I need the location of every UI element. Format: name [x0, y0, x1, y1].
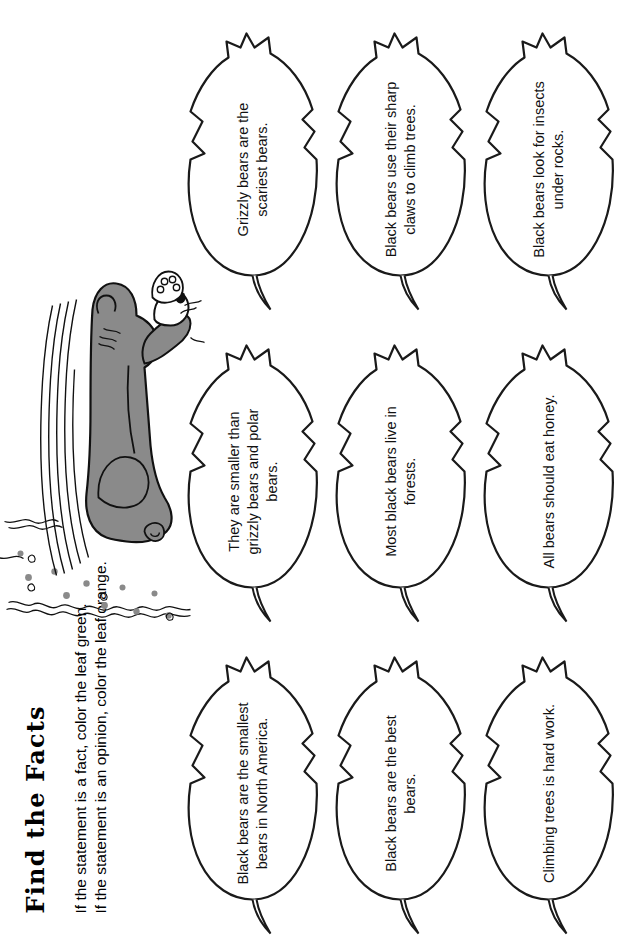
leaf-item[interactable]: They are smaller than grizzly bears and …: [182, 331, 322, 631]
worksheet-sheet: Find the Facts If the statement is a fac…: [0, 0, 622, 949]
leaf-icon: [330, 19, 470, 319]
leaf-item[interactable]: All bears should eat honey.: [478, 331, 618, 631]
leaf-grid: Black bears are the smallest bears in No…: [180, 0, 622, 949]
leaf-item[interactable]: Black bears look for insects under rocks…: [478, 19, 618, 319]
leaf-item[interactable]: Black bears are the smallest bears in No…: [182, 643, 322, 943]
page-title: Find the Facts: [20, 705, 49, 913]
worksheet-page: Find the Facts If the statement is a fac…: [0, 0, 622, 949]
leaf-item[interactable]: Grizzly bears are the scariest bears.: [182, 19, 322, 319]
bear-illustration: [0, 229, 194, 649]
leaf-item[interactable]: Most black bears live in forests.: [330, 331, 470, 631]
leaf-icon: [478, 643, 618, 943]
bee-dots-icon: [17, 550, 173, 620]
leaf-icon: [182, 19, 322, 319]
leaf-icon: [182, 331, 322, 631]
leaf-item[interactable]: Climbing trees is hard work.: [478, 643, 618, 943]
leaf-item[interactable]: Black bears are the best bears.: [330, 643, 470, 943]
leaf-icon: [330, 331, 470, 631]
leaf-icon: [330, 643, 470, 943]
leaf-item[interactable]: Black bears use their sharp claws to cli…: [330, 19, 470, 319]
bear-illustration-svg: [0, 229, 204, 649]
leaf-icon: [478, 331, 618, 631]
leaf-icon: [182, 643, 322, 943]
log-icon: [40, 299, 88, 575]
leaf-icon: [478, 19, 618, 319]
